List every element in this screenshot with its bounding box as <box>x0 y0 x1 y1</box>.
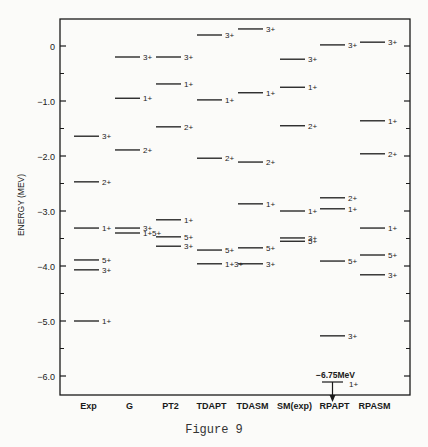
level-label: 3+ <box>388 38 397 47</box>
category-label-tdasm: TDASM <box>237 401 269 411</box>
level-label: 3+ <box>348 332 357 341</box>
figure-caption: Figure 9 <box>0 423 428 437</box>
category-label-smexp: SM(exp) <box>277 401 312 411</box>
level-label: 1+ <box>308 83 317 92</box>
offscale-annotation: −6.75MeV <box>316 370 355 380</box>
category-label-rpapt: RPAPT <box>320 401 350 411</box>
level-label: 3+ <box>388 271 397 280</box>
level-label: 1+ <box>308 207 317 216</box>
level-label: 5+ <box>225 246 234 255</box>
level-label: 1+ <box>266 89 275 98</box>
level-label: 1+ <box>143 94 152 103</box>
level-label: 5+ <box>266 244 275 253</box>
level-label: 1+ <box>225 96 234 105</box>
y-tick-label: −5.0 <box>37 317 55 327</box>
level-label: 2+ <box>184 123 193 132</box>
level-label: 1+ <box>184 216 193 225</box>
level-label: 3+ <box>184 242 193 251</box>
category-label-g: G <box>126 401 133 411</box>
category-label-tdapt: TDAPT <box>197 401 227 411</box>
level-label: 2+ <box>266 158 275 167</box>
level-label: 1+ <box>348 205 357 214</box>
y-tick-label: −3.0 <box>37 207 55 217</box>
level-label: 1+ <box>184 80 193 89</box>
level-label: 2+ <box>388 150 397 159</box>
level-label: 2+ <box>348 194 357 203</box>
level-label: 1+ <box>349 380 358 389</box>
level-label: 1+ <box>102 317 111 326</box>
level-label: 5+ <box>102 256 111 265</box>
level-label: 3+ <box>348 41 357 50</box>
level-label: 2+ <box>308 122 317 131</box>
level-label: 5+ <box>348 257 357 266</box>
level-label: 5+ <box>388 251 397 260</box>
y-tick-label: −1.0 <box>37 97 55 107</box>
level-label: 1+ <box>102 224 111 233</box>
level-label: 3+ <box>225 31 234 40</box>
level-label: 3+ <box>102 132 111 141</box>
level-label: 3+ <box>308 55 317 64</box>
level-label: 1+ <box>266 200 275 209</box>
level-label: 1+ <box>388 224 397 233</box>
level-scheme-chart: 0−1.0−2.0−3.0−4.0−5.0−6.0ENERGY (MEV)Exp… <box>0 0 428 447</box>
level-label: 3+ <box>184 53 193 62</box>
category-label-pt2: PT2 <box>162 401 179 411</box>
level-label: 3+ <box>102 266 111 275</box>
y-tick-label: −4.0 <box>37 262 55 272</box>
level-label: 5+ <box>308 237 317 246</box>
plot-frame <box>60 19 410 395</box>
category-label-exp: Exp <box>80 401 97 411</box>
y-tick-label: −6.0 <box>37 372 55 382</box>
level-label: 3+ <box>143 53 152 62</box>
level-label: 3+ <box>266 25 275 34</box>
level-label: 2+ <box>225 154 234 163</box>
level-label: 5+ <box>184 233 193 242</box>
y-tick-label: 0 <box>50 42 55 52</box>
y-tick-label: −2.0 <box>37 152 55 162</box>
y-axis-label: ENERGY (MEV) <box>16 174 26 236</box>
category-label-rpasm: RPASM <box>359 401 391 411</box>
level-label: 2+ <box>102 178 111 187</box>
level-label: 1+ <box>388 117 397 126</box>
level-label: 3+ <box>266 260 275 269</box>
level-label: 2+ <box>143 146 152 155</box>
